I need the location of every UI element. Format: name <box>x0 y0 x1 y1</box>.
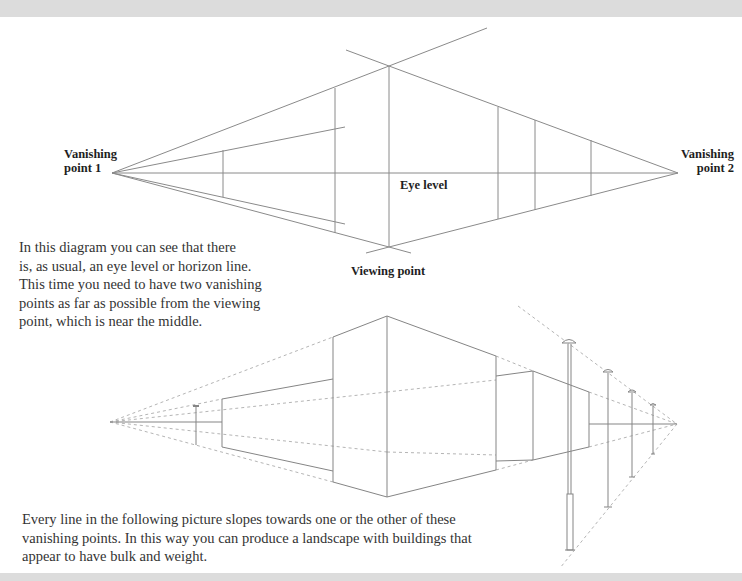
vp1-top-line <box>112 66 389 173</box>
street-lamp-3 <box>628 390 636 477</box>
street-lamp-2 <box>603 370 613 508</box>
caption-top-line: This time you need to have two vanishing <box>19 275 279 294</box>
apex-extension-right <box>389 28 487 66</box>
vp2-top-line <box>389 66 678 173</box>
vp1-label-line1: Vanishing <box>64 147 117 161</box>
base-extension-left <box>366 247 389 253</box>
vp1-guides <box>110 337 496 482</box>
vp2-label-line1: Vanishing <box>681 147 734 161</box>
vp2-guides <box>496 306 677 568</box>
low-building-bottom <box>222 447 333 471</box>
vp1-bottom-line <box>112 173 389 247</box>
vanishing-point-1-label: Vanishing point 1 <box>64 147 117 175</box>
vanishing-point-2-label: Vanishing point 2 <box>681 147 734 175</box>
vp1-mid-lower-line <box>112 173 345 224</box>
main-building <box>333 316 496 497</box>
vp2-label-line2: point 2 <box>681 161 734 175</box>
caption-top-line: point, which is near the middle. <box>19 312 279 331</box>
two-point-diagram <box>112 28 678 253</box>
caption-bottom: Every line in the following picture slop… <box>22 510 522 566</box>
caption-top: In this diagram you can see that there i… <box>19 238 279 331</box>
caption-bottom-line: Every line in the following picture slop… <box>22 510 522 529</box>
low-building-top <box>222 379 333 399</box>
street-lamp-4 <box>650 404 656 455</box>
base-extension-right <box>389 247 411 253</box>
caption-top-line: is, as usual, an eye level or horizon li… <box>19 257 279 276</box>
street-lamp-1 <box>562 340 576 551</box>
caption-top-line: In this diagram you can see that there <box>19 238 279 257</box>
vp1-mid-upper-line <box>112 127 345 173</box>
apex-extension-left <box>346 50 389 66</box>
second-building <box>496 371 589 461</box>
caption-bottom-line: appear to have bulk and weight. <box>22 547 522 566</box>
caption-bottom-line: vanishing points. In this way you can pr… <box>22 529 522 548</box>
viewing-point-label: Viewing point <box>351 264 425 278</box>
caption-top-line: points as far as possible from the viewi… <box>19 294 279 313</box>
vp1-label-line2: point 1 <box>64 161 117 175</box>
eye-level-label: Eye level <box>400 178 448 192</box>
